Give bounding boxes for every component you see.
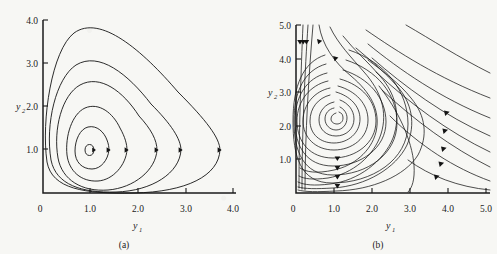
panel-b-spiral-arm-2 <box>299 27 384 179</box>
panel-b-outer-1 <box>406 25 490 73</box>
panel-b-spiral-w9 <box>331 112 343 124</box>
panel-a-xtick-2: 2.0 <box>132 204 144 214</box>
panel-b-ylabel-sub: 2 <box>274 93 278 100</box>
panel-b-outer-5 <box>376 72 490 152</box>
arrowhead-icon <box>442 129 448 135</box>
panel-b-ytick-4: 4.0 <box>279 55 291 65</box>
panel-b-plot: 5.0 4.0 3.0 2.0 1.0 0 1.0 2.0 3.0 4.0 5.… <box>248 0 497 254</box>
panel-a-orbit-2 <box>75 127 109 169</box>
panel-a-orbit-5 <box>49 61 181 192</box>
panel-b-spiral-w3 <box>297 79 376 158</box>
panel-a-ytick-0: 0 <box>38 204 43 214</box>
panel-b-outer-8 <box>408 160 490 190</box>
panel-b-outer-2 <box>366 30 490 98</box>
panel-b-xtick-3: 3.0 <box>404 204 416 214</box>
panel-a-caption: (a) <box>119 240 130 251</box>
arrowhead-icon <box>335 157 341 162</box>
panel-b-xlabel-base: y <box>385 220 391 231</box>
panel-b-ytick-2: 2.0 <box>279 122 291 132</box>
panel-a-ytick-1: 1.0 <box>26 145 38 155</box>
panel-b-spiral-arm-3 <box>298 36 397 185</box>
panel-b-spiral-w2 <box>303 86 368 150</box>
panel-b-caption: (b) <box>372 240 383 251</box>
panel-a-trajectories <box>45 28 220 193</box>
panel-b-ytick-5: 5.0 <box>279 21 291 31</box>
panel-a-ytick-4: 4.0 <box>26 16 38 26</box>
panel-a-plot: 4.0 3.0 2.0 1.0 0 1.0 2.0 3.0 4.0 y 2 y … <box>0 0 248 254</box>
panel-a-xlabel-sub: 1 <box>139 226 142 233</box>
panel-b-xtick-5: 5.0 <box>480 204 492 214</box>
panel-a-xlabel-base: y <box>132 220 138 231</box>
panel-b-ylabel-base: y <box>267 87 273 98</box>
panel-a-ytick-3: 3.0 <box>26 59 38 69</box>
panel-a: 4.0 3.0 2.0 1.0 0 1.0 2.0 3.0 4.0 y 2 y … <box>0 0 248 254</box>
panel-a-xtick-4: 4.0 <box>227 204 239 214</box>
panel-a-orbit-4 <box>57 82 157 191</box>
arrowhead-icon <box>439 162 445 168</box>
panel-b: 5.0 4.0 3.0 2.0 1.0 0 1.0 2.0 3.0 4.0 5.… <box>248 0 496 254</box>
panel-a-xtick-3: 3.0 <box>180 204 192 214</box>
arrowhead-icon <box>444 111 450 117</box>
arrowhead-icon <box>317 39 322 44</box>
panel-b-xlabel-sub: 1 <box>392 226 395 233</box>
panel-b-spiral-w7 <box>319 100 354 136</box>
panel-a-axes <box>43 20 236 193</box>
panel-b-spiral-w8 <box>325 107 347 130</box>
panel-a-ylabel: y 2 <box>15 101 26 114</box>
panel-b-trajectories <box>293 25 490 192</box>
panel-b-axes <box>296 25 490 193</box>
arrowhead-icon <box>441 147 447 153</box>
phase-portrait-figure: 4.0 3.0 2.0 1.0 0 1.0 2.0 3.0 4.0 y 2 y … <box>0 0 497 254</box>
panel-a-ylabel-base: y <box>15 101 21 112</box>
panel-b-ytick-3: 3.0 <box>279 88 291 98</box>
panel-b-xtick-4: 4.0 <box>442 204 454 214</box>
panel-b-ytick-0: 0 <box>291 204 296 214</box>
panel-b-xlabel: y 1 <box>385 220 395 233</box>
panel-a-ytick-2: 2.0 <box>26 102 38 112</box>
arrowhead-icon <box>335 175 341 180</box>
panel-b-xtick-1: 1.0 <box>328 204 340 214</box>
panel-b-ylabel: y 2 <box>267 87 278 100</box>
panel-b-ytick-1: 1.0 <box>279 155 291 165</box>
panel-b-xtick-2: 2.0 <box>366 204 378 214</box>
panel-a-xlabel: y 1 <box>132 220 142 233</box>
panel-b-spiral-w1 <box>310 92 360 143</box>
panel-a-xtick-1: 1.0 <box>84 204 96 214</box>
